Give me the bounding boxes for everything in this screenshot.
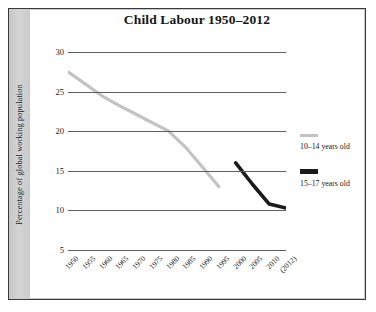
series-line [68, 72, 219, 187]
x-axis-tick-label: 2000 [231, 254, 248, 271]
x-axis-tick-label: 1975 [147, 254, 164, 271]
y-axis-tick-label: 15 [40, 166, 64, 176]
gridline [68, 131, 286, 132]
gridline [68, 92, 286, 93]
x-axis-tick-label: 1960 [97, 254, 114, 271]
y-axis-tick-label: 10 [40, 205, 64, 215]
y-axis-tick-label: 30 [40, 47, 64, 57]
x-axis-tick-label: 1990 [197, 254, 214, 271]
y-axis-label-text: Percentage of global working population [15, 84, 24, 225]
series-lines [68, 52, 286, 250]
gray-line-swatch [300, 134, 318, 137]
y-axis-tick-label: 5 [40, 245, 64, 255]
legend-label-10-14: 10–14 years old [300, 142, 362, 151]
x-axis-tick-label: 1970 [130, 254, 147, 271]
x-axis-tick-label: 1995 [214, 254, 231, 271]
y-axis-label: Percentage of global working population [9, 9, 30, 299]
plot-area: 30252015105 [68, 52, 286, 250]
x-axis-tick-label: 1965 [114, 254, 131, 271]
series-line [236, 163, 286, 208]
y-axis-tick-label: 20 [40, 126, 64, 136]
x-axis-tick-label: 1955 [80, 254, 97, 271]
gridline [68, 171, 286, 172]
chart-legend: 10–14 years old 15–17 years old [300, 134, 362, 206]
black-line-swatch [300, 169, 318, 173]
y-axis-tick-label: 25 [40, 87, 64, 97]
gridline [68, 210, 286, 211]
legend-label-15-17: 15–17 years old [300, 179, 362, 188]
x-axis-tick-labels: 1950195519601965197019751980198519901995… [68, 250, 286, 298]
legend-item-15-17: 15–17 years old [300, 169, 362, 187]
chart-title: Child Labour 1950–2012 [32, 12, 362, 28]
x-axis-tick-label: 2005 [248, 254, 265, 271]
gridline [68, 52, 286, 53]
x-axis-tick-label: 1985 [181, 254, 198, 271]
chart-figure: Percentage of global working population … [0, 0, 376, 312]
legend-item-10-14: 10–14 years old [300, 134, 362, 151]
x-axis-tick-label: 1980 [164, 254, 181, 271]
